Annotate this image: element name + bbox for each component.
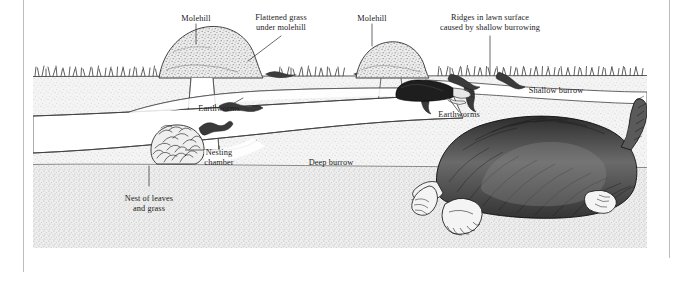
label-nest-of-leaves-line1: Nest of leaves (125, 194, 173, 204)
label-deep-burrow: Deep burrow (309, 158, 354, 168)
label-ridges-line2: caused by shallow burrowing (440, 23, 540, 33)
label-ridges-line1: Ridges in lawn surface (451, 13, 529, 23)
label-flattened-grass-line1: Flattened grass (255, 13, 307, 23)
label-molehill-left: Molehill (181, 14, 210, 24)
label-molehill-right: Molehill (357, 14, 386, 24)
page-column-rule-left (23, 0, 24, 272)
label-flattened-grass-line2: under molehill (256, 23, 306, 33)
mole-burrow-illustration (33, 0, 647, 268)
page-column-rule-right (669, 0, 670, 258)
label-earthworms-right: Earthworms (438, 110, 480, 120)
label-earthworms-left: Earthworms (198, 104, 240, 114)
label-nesting-chamber-line1: Nesting (206, 148, 233, 158)
label-nesting-chamber-line2: chamber (204, 158, 233, 168)
illustration-panel: Molehill Flattened grass under molehill … (33, 0, 647, 268)
label-nest-of-leaves-line2: and grass (133, 204, 165, 214)
label-shallow-burrow: Shallow burrow (529, 86, 584, 96)
figure-page: Molehill Flattened grass under molehill … (0, 0, 675, 282)
